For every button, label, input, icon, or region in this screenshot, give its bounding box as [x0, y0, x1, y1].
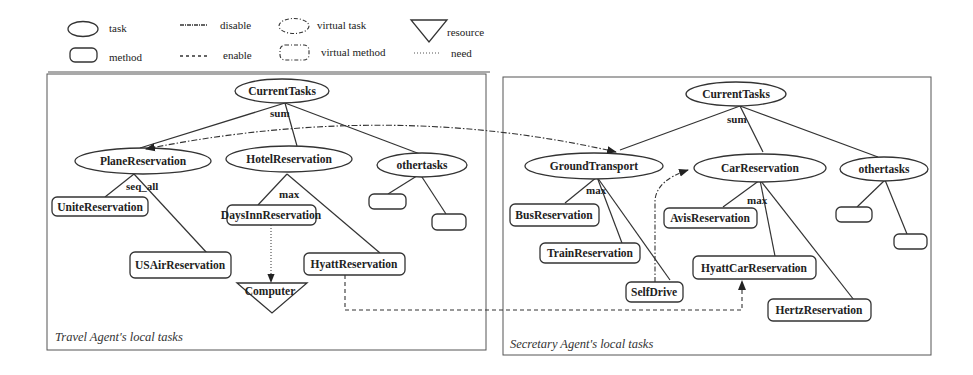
legend-task-label: task [109, 22, 127, 34]
secretary-agent-caption: Secretary Agent's local tasks [510, 337, 653, 351]
method-unnamed-4[interactable] [894, 234, 927, 249]
legend-enable: enable [180, 49, 252, 61]
svg-text:othertasks: othertasks [858, 163, 910, 175]
travel-agent-panel: sum seq_all max CurrentTasks PlaneReserv… [47, 74, 486, 350]
task-hotel-reservation[interactable]: HotelReservation [226, 146, 352, 172]
svg-text:UniteReservation: UniteReservation [57, 201, 143, 213]
task-othertasks-right[interactable]: othertasks [840, 157, 928, 181]
legend-virtual-method: virtual method [280, 45, 386, 60]
legend-enable-label: enable [223, 49, 252, 61]
method-unnamed-3[interactable] [836, 207, 872, 222]
svg-text:TrainReservation: TrainReservation [547, 247, 634, 259]
method-train-reservation[interactable]: TrainReservation [540, 243, 640, 263]
legend-resource-label: resource [447, 26, 484, 38]
travel-agent-caption: Travel Agent's local tasks [55, 330, 183, 344]
svg-text:CurrentTasks: CurrentTasks [248, 85, 316, 97]
method-usair-reservation[interactable]: USAirReservation [130, 252, 231, 278]
svg-text:CurrentTasks: CurrentTasks [702, 88, 770, 100]
legend-need: need [414, 47, 472, 59]
method-shape-icon [70, 48, 97, 62]
legend-virtual-task-label: virtual task [317, 19, 367, 31]
diagram-canvas: task method disable enable virtual task … [0, 0, 973, 375]
secretary-agent-panel: sum max max CurrentTasks GroundTransport… [503, 77, 931, 355]
svg-text:DaysInnReservation: DaysInnReservation [221, 209, 322, 222]
task-current-tasks[interactable]: CurrentTasks [235, 79, 329, 103]
legend: task method disable enable virtual task … [48, 19, 490, 73]
legend-disable-label: disable [220, 19, 251, 31]
legend-virtual-task: virtual task [279, 19, 367, 34]
virtual-method-shape-icon [280, 45, 309, 60]
method-avis-reservation[interactable]: AvisReservation [664, 208, 757, 228]
root-rel-label: sum [270, 107, 290, 119]
svg-text:Computer: Computer [245, 285, 295, 298]
plane-rel-label: seq_all [126, 180, 158, 192]
method-bus-reservation[interactable]: BusReservation [510, 204, 599, 226]
legend-resource: resource [411, 20, 484, 42]
svg-text:BusReservation: BusReservation [515, 209, 593, 221]
method-unnamed-2[interactable] [432, 214, 466, 230]
svg-text:SelfDrive: SelfDrive [631, 286, 677, 298]
task-current-tasks-right[interactable]: CurrentTasks [686, 82, 786, 106]
svg-text:HyattReservation: HyattReservation [311, 258, 398, 271]
method-hyatt-reservation[interactable]: HyattReservation [304, 253, 405, 275]
task-car-reservation[interactable]: CarReservation [694, 154, 826, 182]
task-ground-transport[interactable]: GroundTransport [525, 153, 663, 179]
legend-disable: disable [180, 19, 251, 31]
svg-text:AvisReservation: AvisReservation [670, 212, 750, 224]
task-othertasks[interactable]: othertasks [377, 153, 467, 177]
hotel-rel-label: max [279, 188, 300, 200]
ground-rel-label: max [586, 184, 607, 196]
svg-text:USAirReservation: USAirReservation [135, 259, 226, 271]
method-self-drive[interactable]: SelfDrive [626, 282, 683, 302]
svg-text:othertasks: othertasks [396, 159, 448, 171]
resource-computer[interactable]: Computer [237, 283, 307, 313]
resource-shape-icon [411, 20, 447, 42]
svg-text:HertzReservation: HertzReservation [776, 304, 863, 316]
method-hyatt-car-reservation[interactable]: HyattCarReservation [693, 256, 816, 279]
method-daysinn-reservation[interactable]: DaysInnReservation [221, 205, 322, 225]
legend-need-label: need [451, 47, 472, 59]
task-shape-icon [68, 22, 98, 37]
method-hertz-reservation[interactable]: HertzReservation [768, 299, 871, 321]
svg-text:HyattCarReservation: HyattCarReservation [701, 262, 808, 275]
virtual-task-shape-icon [279, 19, 309, 34]
method-unite-reservation[interactable]: UniteReservation [52, 197, 148, 216]
svg-text:CarReservation: CarReservation [721, 162, 800, 174]
svg-text:HotelReservation: HotelReservation [246, 153, 332, 165]
legend-method: method [70, 48, 142, 63]
svg-text:PlaneReservation: PlaneReservation [100, 155, 187, 167]
method-unnamed-1[interactable] [369, 194, 406, 209]
legend-task: task [68, 22, 127, 37]
task-plane-reservation[interactable]: PlaneReservation [75, 148, 211, 174]
disable-relation-ground-plane [146, 125, 616, 152]
root-rel-label-right: sum [727, 113, 747, 125]
legend-method-label: method [109, 51, 142, 63]
svg-text:GroundTransport: GroundTransport [550, 160, 639, 173]
car-rel-label: max [747, 194, 768, 206]
legend-virtual-method-label: virtual method [321, 46, 386, 58]
